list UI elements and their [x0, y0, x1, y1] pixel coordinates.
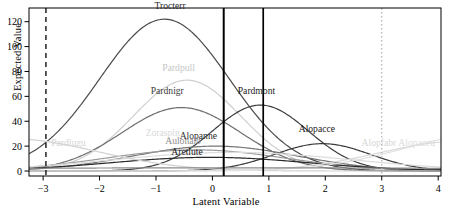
x-tick-label: 3 — [379, 183, 384, 194]
curve-trocterr — [29, 19, 441, 171]
x-tick-label: 1 — [266, 183, 271, 194]
curve-label-trocterr: Trocterr — [155, 0, 187, 11]
curve-label-arctlute: Arctlute — [171, 146, 202, 157]
curve-labels-layer: TrocterrPardpullPardnigrPardmontAlopacce… — [51, 0, 435, 157]
curves-layer — [29, 19, 441, 171]
curve-label-pardnigr: Pardnigr — [151, 85, 185, 96]
curve-label-alopfabr: Alopfabr — [362, 137, 397, 148]
x-tick-label: −3 — [38, 183, 49, 194]
curve-label-pardlugu: Pardlugu — [51, 137, 86, 148]
curve-baseline-flat — [29, 168, 441, 169]
curve-label-alopaccu: Alopaccu — [398, 137, 435, 148]
y-axis-title: Expected Value — [12, 7, 26, 107]
plot-area: −3−2−101234020406080100120 TrocterrPardp… — [0, 0, 452, 215]
y-tick-label: 20 — [12, 141, 22, 152]
x-tick-label: 2 — [323, 183, 328, 194]
curve-label-alopacce: Alopacce — [299, 123, 335, 134]
x-axis-title: Latent Variable — [0, 196, 452, 207]
curve-label-pardpull: Pardpull — [162, 62, 195, 73]
x-tick-label: 4 — [436, 183, 441, 194]
y-tick-label: 0 — [17, 166, 22, 177]
x-tick-label: 0 — [210, 183, 215, 194]
curve-label-pardmont: Pardmont — [238, 85, 276, 96]
x-tick-label: −2 — [94, 183, 105, 194]
y-tick-label: 40 — [12, 116, 22, 127]
curve-label-zoraspin: Zoraspin — [146, 127, 180, 138]
chart-figure: Expected Value Latent Variable −3−2−1012… — [0, 0, 452, 215]
x-tick-label: −1 — [151, 183, 162, 194]
